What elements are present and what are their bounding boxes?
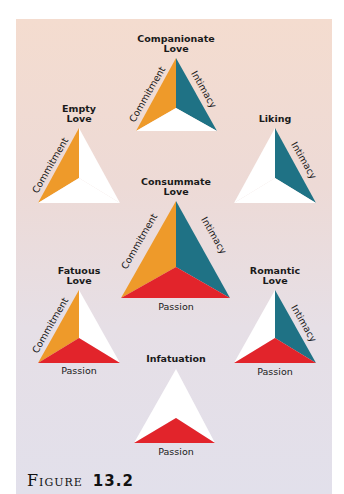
infatuation-triangle: Infatuation Passion <box>134 353 215 457</box>
fatuous-love-triangle: Fatuous Love Commitment Passion <box>30 265 120 376</box>
love-triangles-diagram: Companionate Love Commitment Intimacy Em… <box>0 0 344 494</box>
companionate-title-line2: Love <box>163 43 188 54</box>
empty-love-triangle: Empty Love Commitment <box>30 103 120 203</box>
figure-caption: Figure13.2 <box>27 471 134 490</box>
companionate-love-triangle: Companionate Love Commitment Intimacy <box>127 33 220 131</box>
intimacy-label: Intimacy <box>199 215 229 256</box>
infatuation-title: Infatuation <box>146 353 206 364</box>
fatuous-title-line2: Love <box>66 275 91 286</box>
consummate-title-line2: Love <box>163 186 188 197</box>
figure-number: 13.2 <box>93 472 134 490</box>
passion-label: Passion <box>158 446 194 457</box>
passion-label: Passion <box>61 365 97 376</box>
consummate-love-triangle: Consummate Love Commitment Intimacy Pass… <box>119 176 230 312</box>
liking-title: Liking <box>259 113 291 124</box>
passion-label: Passion <box>257 366 293 377</box>
empty-title-line2: Love <box>66 113 91 124</box>
romantic-love-triangle: Romantic Love Intimacy Passion <box>234 265 319 377</box>
liking-triangle: Liking Intimacy <box>234 113 319 203</box>
passion-label: Passion <box>158 301 194 312</box>
figure-label: Figure <box>27 471 83 490</box>
romantic-title-line2: Love <box>262 275 287 286</box>
